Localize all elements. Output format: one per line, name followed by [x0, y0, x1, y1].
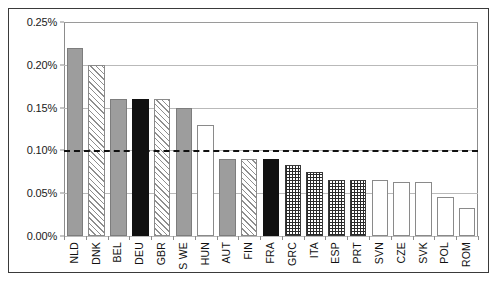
x-axis-label-nld: NLD — [68, 242, 82, 264]
bar-grc — [285, 165, 302, 236]
x-axis-tick-mark — [260, 236, 261, 240]
x-axis-label-cze: CZE — [395, 242, 409, 264]
x-axis-label-esp: ESP — [329, 242, 343, 264]
bar-slot — [195, 22, 217, 236]
gridline — [64, 236, 478, 237]
bar-slot — [238, 22, 260, 236]
x-axis-label-bel: BEL — [111, 242, 125, 262]
y-axis-tick-label: 0.15% — [27, 102, 57, 114]
x-axis-label-pol: POL — [438, 242, 452, 264]
bar-hun — [197, 125, 214, 236]
bar-svk — [415, 182, 432, 236]
x-axis-label-aut: AUT — [220, 242, 234, 264]
bar-s-we — [176, 108, 193, 236]
bar-slot — [347, 22, 369, 236]
x-axis-tick-mark — [238, 236, 239, 240]
bar-pol — [437, 197, 454, 236]
bar-rom — [459, 208, 476, 236]
x-axis-tick-mark — [391, 236, 392, 240]
x-axis-tick-mark — [456, 236, 457, 240]
bar-fin — [241, 159, 258, 236]
y-axis-tick-label: 0.10% — [27, 144, 57, 156]
bar-slot — [64, 22, 86, 236]
x-axis-tick-mark — [325, 236, 326, 240]
bar-slot — [151, 22, 173, 236]
bar-gbr — [154, 99, 171, 236]
x-axis-tick-mark — [173, 236, 174, 240]
plot-area: 0.00%0.05%0.10%0.15%0.20%0.25% — [64, 22, 478, 236]
x-axis-label-hun: HUN — [199, 242, 213, 265]
y-axis-tick-label: 0.00% — [27, 230, 57, 242]
x-axis-tick-mark — [195, 236, 196, 240]
x-axis-tick-mark — [304, 236, 305, 240]
x-axis-label-dnk: DNK — [90, 242, 104, 265]
bar-svn — [372, 180, 389, 236]
threshold-line — [64, 150, 478, 152]
y-axis-tick-label: 0.20% — [27, 59, 57, 71]
bar-slot — [129, 22, 151, 236]
x-axis-label-deu: DEU — [133, 242, 147, 265]
bar-fra — [263, 159, 280, 236]
x-axis-tick-mark — [108, 236, 109, 240]
x-axis-tick-mark — [282, 236, 283, 240]
x-axis-tick-mark — [413, 236, 414, 240]
x-axis-tick-mark — [347, 236, 348, 240]
x-axis-label-rom: ROM — [460, 242, 474, 267]
bar-ita — [306, 172, 323, 236]
x-axis-label-svk: SVK — [417, 242, 431, 264]
bar-slot — [86, 22, 108, 236]
bar-nld — [67, 48, 84, 236]
bar-series — [64, 22, 478, 236]
x-axis-tick-mark — [151, 236, 152, 240]
bar-bel — [110, 99, 127, 236]
bar-slot — [173, 22, 195, 236]
bar-slot — [217, 22, 239, 236]
x-axis-tick-mark — [86, 236, 87, 240]
x-axis-tick-mark — [369, 236, 370, 240]
x-axis-label-ita: ITA — [308, 242, 322, 258]
bar-slot — [108, 22, 130, 236]
x-axis-tick-mark — [64, 236, 65, 240]
bar-cze — [393, 182, 410, 236]
bar-deu — [132, 99, 149, 236]
x-axis-tick-mark — [217, 236, 218, 240]
bar-aut — [219, 159, 236, 236]
bar-slot — [391, 22, 413, 236]
bar-slot — [282, 22, 304, 236]
bar-prt — [350, 180, 367, 236]
bar-slot — [304, 22, 326, 236]
x-axis-label-s-we: S WE — [177, 242, 191, 270]
y-axis-tick-label: 0.25% — [27, 16, 57, 28]
x-axis-tick-mark — [129, 236, 130, 240]
bar-slot — [413, 22, 435, 236]
x-axis-label-gbr: GBR — [155, 242, 169, 265]
x-axis-label-fra: FRA — [264, 242, 278, 264]
bar-slot — [260, 22, 282, 236]
x-axis-tick-mark — [478, 236, 479, 240]
x-axis-label-prt: PRT — [351, 242, 365, 263]
x-axis-label-grc: GRC — [286, 242, 300, 266]
x-axis-label-svn: SVN — [373, 242, 387, 264]
x-axis-tick-mark — [434, 236, 435, 240]
x-axis-label-fin: FIN — [242, 242, 256, 260]
y-axis-tick-label: 0.05% — [27, 187, 57, 199]
chart-figure: 0.00%0.05%0.10%0.15%0.20%0.25% NLDDNKBEL… — [8, 8, 489, 273]
bar-slot — [434, 22, 456, 236]
bar-slot — [325, 22, 347, 236]
bar-slot — [456, 22, 478, 236]
bar-esp — [328, 180, 345, 236]
bar-slot — [369, 22, 391, 236]
